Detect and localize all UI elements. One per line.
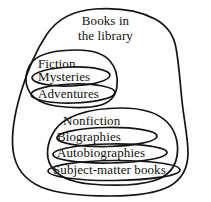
euler-diagram: Books in the library Fiction Mysteries A… — [0, 0, 211, 202]
diagram-title-line-2: the library — [0, 28, 211, 43]
region-label-biographies: Biographies — [57, 130, 121, 144]
region-label-mysteries: Mysteries — [38, 70, 90, 84]
region-label-nonfiction: Nonfiction — [63, 114, 120, 128]
diagram-title: Books in the library — [0, 13, 211, 43]
region-label-subject-matter-books: Subject-matter books — [53, 163, 166, 177]
diagram-title-line-1: Books in — [82, 13, 129, 28]
region-label-autobiographies: Autobiographies — [57, 146, 145, 160]
region-label-adventures: Adventures — [38, 87, 99, 101]
